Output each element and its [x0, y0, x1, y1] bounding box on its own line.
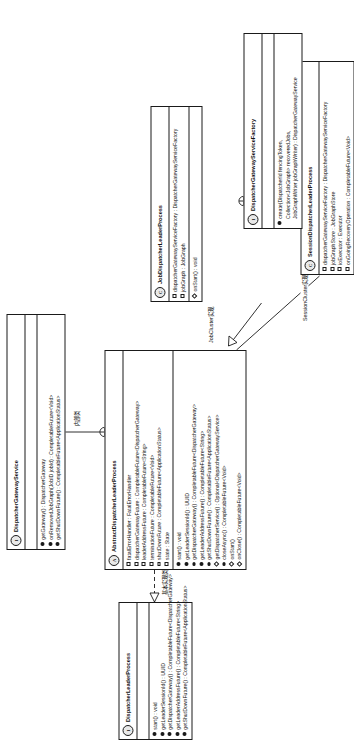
interface-badge: I [10, 535, 21, 546]
public-marker-icon [152, 732, 156, 736]
class-header: C SessionDispatcherLeaderProcess [301, 62, 319, 274]
method-row: start() : void [175, 354, 183, 566]
attribute-label: ioExecutor : Executor [336, 216, 344, 265]
method-label: getGateway() : DispatcherGateway [39, 459, 47, 540]
attributes-section [25, 315, 37, 549]
public-marker-icon [175, 732, 179, 736]
attribute-label: dispatcherGatewayServiceFactory : Dispat… [171, 129, 179, 292]
method-row: getShutDownFuture() : CompletableFuture<… [181, 606, 189, 736]
attribute-row: state : State [163, 354, 171, 566]
public-marker-icon [55, 542, 59, 546]
method-label: start() : void [175, 532, 183, 559]
class-title: DispatcherLeaderProcess [124, 653, 130, 722]
method-row: JobGraphWriter jobGraphWriter) : Dispatc… [291, 37, 299, 225]
methods-section: start() : void getLeaderSessionId() : UU… [173, 351, 245, 569]
public-marker-icon [222, 562, 226, 566]
method-label: JobGraphWriter jobGraphWriter) : Dispatc… [291, 77, 299, 219]
attribute-marker-icon [164, 562, 168, 566]
attributes-section: dispatcherGatewayServiceFactory : Dispat… [319, 62, 353, 274]
method-label: create(DispatcherId fencingToken, [276, 140, 284, 219]
class-title: AbstractDispatcherLeaderProcess [110, 460, 116, 552]
attribute-row: terminationFuture : CompletableFuture<Vo… [148, 354, 156, 566]
attribute-marker-icon [180, 294, 184, 298]
method-row: getDispatcherGateway() : CompletableFutu… [166, 606, 174, 736]
class-dispatcher-leader-process[interactable]: I DispatcherLeaderProcess start() : void… [118, 602, 192, 740]
method-row: getDispatcherGateway() : CompletableFutu… [190, 354, 198, 566]
method-label: closeAsync() : CompletableFuture<Void> [220, 465, 228, 559]
attribute-label: fatalErrorHandler : FatalErrorHandler [125, 475, 133, 560]
method-row: onClose() : CompletableFuture<Void> [235, 354, 243, 566]
attributes-section [262, 34, 274, 228]
abstract-badge: A [108, 555, 119, 566]
class-title: JobDispatcherLeaderProcess [156, 205, 162, 284]
methods-section: create(DispatcherId fencingToken, Collec… [274, 34, 301, 228]
class-title: DispatcherGatewayService [12, 460, 18, 532]
class-header: I DispatcherLeaderProcess [119, 603, 137, 739]
method-row: create(DispatcherId fencingToken, [276, 37, 284, 225]
edge-label-session-cluster-impl: SessionCluster实现 [300, 274, 308, 322]
method-row: getDispatcherService() : Optional<Dispat… [213, 354, 221, 566]
attribute-label: leaderAddressFuture : CompletableFuture<… [140, 443, 148, 560]
public-marker-icon [184, 562, 188, 566]
attribute-label: state : State [163, 532, 171, 560]
attribute-label: dispatcherGatewayFuture : CompletableFut… [133, 401, 141, 560]
attribute-row: leaderAddressFuture : CompletableFuture<… [140, 354, 148, 566]
method-row: closeAsync() : CompletableFuture<Void> [220, 354, 228, 566]
attribute-row: jobGraphStore : JobGraphStore [329, 65, 337, 271]
attribute-row: onGoingRecoveryOperation : CompletableFu… [344, 65, 352, 271]
method-label: getLeaderSessionId() : UUID [183, 493, 191, 560]
public-marker-icon [182, 732, 186, 736]
public-marker-icon [167, 732, 171, 736]
attribute-marker-icon [126, 562, 130, 566]
class-dispatcher-gateway-service[interactable]: I DispatcherGatewayService getGateway() … [6, 314, 65, 550]
attributes-section: fatalErrorHandler : FatalErrorHandler di… [123, 351, 173, 569]
attribute-marker-icon [157, 562, 161, 566]
class-header: I DispatcherGatewayService [7, 315, 25, 549]
method-row: getShutDownFuture() : CompletableFuture<… [205, 354, 213, 566]
attribute-marker-icon [141, 562, 145, 566]
attribute-row: dispatcherGatewayServiceFactory : Dispat… [171, 110, 179, 298]
method-row: getLeaderSessionId() : UUID [159, 606, 167, 736]
method-label: getShutDownFuture() : CompletableFuture<… [54, 396, 62, 540]
attribute-row: ioExecutor : Executor [336, 65, 344, 271]
protected-marker-icon [236, 561, 242, 567]
protected-marker-icon [213, 561, 219, 567]
method-row: onStart() [228, 354, 236, 566]
method-label: onStart() : void [191, 257, 199, 291]
class-abstract-dispatcher-leader-process[interactable]: A AbstractDispatcherLeaderProcess fatalE… [104, 350, 246, 570]
protected-marker-icon [228, 561, 234, 567]
method-label: getDispatcherGateway() : CompletableFutu… [166, 574, 174, 730]
attributes-section [137, 603, 149, 739]
method-row: onStart() : void [191, 110, 199, 298]
attribute-label: onGoingRecoveryOperation : CompletableFu… [344, 136, 352, 265]
interface-badge: I [122, 725, 133, 736]
attribute-marker-icon [330, 267, 334, 271]
method-row: getGateway() : DispatcherGateway [39, 318, 47, 546]
method-row: onRemovedJobGraph(JobID jobId) : Complet… [47, 318, 55, 546]
attribute-marker-icon [149, 562, 153, 566]
class-title: SessionDispatcherLeaderProcess [306, 167, 312, 257]
attributes-section: dispatcherGatewayServiceFactory : Dispat… [169, 107, 189, 301]
class-job-dispatcher-leader-process[interactable]: C JobDispatcherLeaderProcess dispatcherG… [150, 106, 202, 302]
attribute-marker-icon [172, 294, 176, 298]
attribute-marker-icon [134, 562, 138, 566]
attribute-label: jobGraph : JobGraph [179, 243, 187, 291]
method-label: getDispatcherGateway() : CompletableFutu… [190, 404, 198, 560]
class-header: A AbstractDispatcherLeaderProcess [105, 351, 123, 569]
method-row: getLeaderSessionId() : UUID [183, 354, 191, 566]
public-marker-icon [176, 562, 180, 566]
class-session-dispatcher-leader-process[interactable]: C SessionDispatcherLeaderProcess dispatc… [300, 61, 354, 275]
attribute-label: shutDownFuture : CompletableFuture<Appli… [155, 427, 163, 560]
public-marker-icon [48, 542, 52, 546]
attribute-marker-icon [322, 267, 326, 271]
method-row: getShutDownFuture() : CompletableFuture<… [54, 318, 62, 546]
edge-label-inner-class: 内部类 [72, 410, 80, 427]
method-label: getLeaderSessionId() : UUID [159, 663, 167, 730]
method-label: onClose() : CompletableFuture<Void> [235, 472, 243, 559]
class-dispatcher-gateway-service-factory[interactable]: I DispatcherGatewayServiceFactory create… [243, 33, 302, 229]
method-row: Collection<JobGraph> recoveredJobs, [284, 37, 292, 225]
edge-label-job-cluster-impl: JobCluster实现 [206, 306, 214, 344]
methods-section: getGateway() : DispatcherGateway onRemov… [37, 315, 64, 549]
